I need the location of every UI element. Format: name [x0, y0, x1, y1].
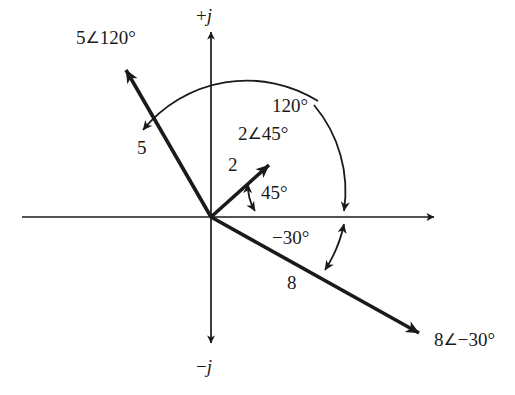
phasor-label-5-angle-120: 5∠120° — [76, 28, 136, 47]
phasor-5-magnitude-annotation: 5 — [137, 138, 147, 157]
phasor-label-8-angle-neg30: 8∠−30° — [434, 330, 495, 349]
angle-arc-neg30-label: −30° — [272, 228, 309, 247]
phasor-8-angle-text: −30° — [458, 329, 495, 350]
angle-arc-neg30 — [325, 224, 344, 270]
phasor-diagram-figure: +j −j 5∠120° 5 2∠45° 2 8∠−30° 8 120° 45°… — [0, 0, 515, 395]
negative-imaginary-sign: − — [196, 356, 207, 377]
negative-imaginary-symbol: j — [207, 356, 212, 377]
phasor-8-magnitude-annotation: 8 — [287, 273, 297, 292]
phasor-8-magnitude-text: 8 — [434, 329, 444, 350]
phasor-5-magnitude-text: 5 — [76, 27, 86, 48]
phasor-2-magnitude-annotation: 2 — [228, 155, 238, 174]
angle-glyph-icon: ∠ — [444, 332, 458, 348]
phasor-5-angle-text: 120° — [100, 27, 136, 48]
positive-imaginary-sign: + — [196, 5, 207, 26]
positive-imaginary-axis-label: +j — [196, 6, 212, 25]
phasor-2-angle-text: 45° — [262, 123, 289, 144]
negative-imaginary-axis-label: −j — [196, 357, 212, 376]
angle-glyph-icon: ∠ — [86, 30, 100, 46]
angle-arc-45 — [248, 184, 255, 211]
angle-glyph-icon: ∠ — [248, 126, 262, 142]
angle-arc-120-label: 120° — [272, 96, 308, 115]
phasor-label-2-angle-45: 2∠45° — [238, 124, 288, 143]
positive-imaginary-symbol: j — [207, 5, 212, 26]
angle-arc-120-lower — [314, 105, 345, 211]
phasor-2-magnitude-text: 2 — [238, 123, 248, 144]
phasor-vector-8 — [211, 217, 419, 333]
angle-arc-45-label: 45° — [261, 183, 288, 202]
